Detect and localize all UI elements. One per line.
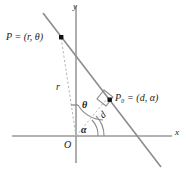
label-y-axis-text: y xyxy=(73,1,77,11)
label-x-axis: x xyxy=(175,127,179,137)
label-origin-text: O xyxy=(64,139,71,150)
label-angle-theta: θ xyxy=(82,99,87,110)
diagram-canvas xyxy=(0,0,186,169)
label-point-p-text: P = (r, θ) xyxy=(6,31,43,42)
point-marker-p-zero xyxy=(108,98,112,102)
label-angle-alpha-text: α xyxy=(81,124,87,135)
label-point-p-zero-text: P₀ = (d, α) xyxy=(115,92,158,103)
label-origin: O xyxy=(64,139,71,150)
label-y-axis: y xyxy=(73,1,77,11)
label-segment-r-text: r xyxy=(56,81,60,92)
label-segment-r: r xyxy=(56,81,60,92)
point-marker-p xyxy=(59,35,63,39)
label-point-p: P = (r, θ) xyxy=(6,31,43,42)
label-angle-alpha: α xyxy=(81,124,87,135)
label-point-p-zero: P₀ = (d, α) xyxy=(115,92,158,103)
label-angle-theta-text: θ xyxy=(82,99,87,110)
label-x-axis-text: x xyxy=(175,127,179,137)
geometry-diagram: P = (r, θ) P₀ = (d, α) r d θ α O y x xyxy=(0,0,186,169)
angle-arc-alpha xyxy=(92,120,98,136)
